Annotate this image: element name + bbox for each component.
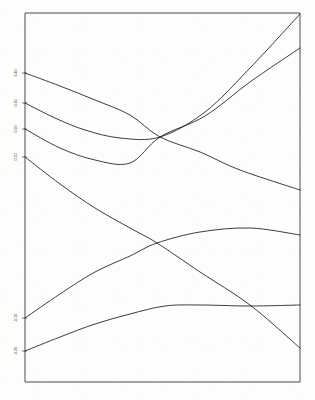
y-tick-label-0: 0.40 [14, 70, 18, 77]
y-tick-label-4: -0.10 [14, 314, 18, 322]
y-tick-label-1: 0.30 [14, 100, 18, 107]
y-tick-label-2: 0.20 [14, 126, 18, 133]
plot-svg: 0.40 0.30 0.20 0.10 -0.10 -0.20 [0, 0, 315, 400]
y-tick-label-5: -0.20 [14, 347, 18, 355]
y-tick-label-3: 0.10 [14, 154, 18, 161]
figure-background [0, 0, 315, 400]
band-structure-figure: 0.40 0.30 0.20 0.10 -0.10 -0.20 [0, 0, 315, 400]
